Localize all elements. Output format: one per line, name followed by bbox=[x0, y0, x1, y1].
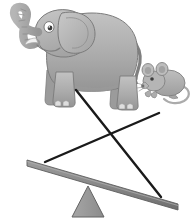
sight-line-mouse bbox=[45, 113, 159, 162]
elephant-eye bbox=[44, 22, 54, 33]
mouse bbox=[137, 63, 189, 104]
mouse-ear-left-inner bbox=[145, 67, 151, 74]
fulcrum bbox=[72, 186, 104, 217]
illustration-canvas: Elephant and mouse on a lever elephant m… bbox=[0, 0, 195, 223]
elephant bbox=[14, 7, 140, 110]
lever-plank bbox=[27, 160, 178, 210]
mouse-eye bbox=[150, 77, 154, 81]
mouse-ear-right-inner bbox=[159, 66, 165, 73]
scene-svg bbox=[0, 0, 195, 223]
